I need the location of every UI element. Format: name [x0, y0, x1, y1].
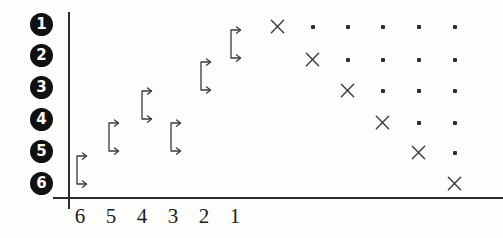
scatter-plot-figure: 123456 654321: [0, 0, 503, 238]
dot-marker: [417, 58, 421, 62]
x-tick-label-5: 5: [101, 203, 121, 230]
dot-marker: [453, 121, 457, 125]
x-tick-label-6: 6: [70, 203, 90, 230]
bracket-arrow-marker: [137, 87, 159, 123]
y-tick-badge-5: 5: [30, 140, 53, 163]
bracket-arrow-marker: [166, 119, 188, 155]
cross-marker: [339, 82, 356, 99]
x-tick-label-4: 4: [132, 203, 152, 230]
cross-marker: [304, 51, 321, 68]
cross-marker: [446, 175, 463, 192]
x-axis-line: [53, 197, 503, 199]
dot-marker: [417, 121, 421, 125]
dot-marker: [381, 58, 385, 62]
dot-marker: [381, 89, 385, 93]
y-tick-badge-2: 2: [30, 44, 53, 67]
y-tick-badge-4: 4: [30, 108, 53, 131]
dot-marker: [417, 89, 421, 93]
bracket-arrow-marker: [196, 58, 218, 94]
dot-marker: [346, 25, 350, 29]
dot-marker: [453, 151, 457, 155]
cross-marker: [269, 18, 286, 35]
y-tick-badge-3: 3: [30, 76, 53, 99]
dot-marker: [311, 25, 315, 29]
bracket-arrow-marker: [104, 119, 126, 155]
dot-marker: [453, 25, 457, 29]
x-tick-label-1: 1: [225, 203, 245, 230]
cross-marker: [410, 144, 427, 161]
y-tick-badge-6: 6: [30, 172, 53, 195]
dot-marker: [417, 25, 421, 29]
y-tick-badge-1: 1: [30, 13, 53, 36]
x-tick-label-2: 2: [194, 203, 214, 230]
dot-marker: [381, 25, 385, 29]
bracket-arrow-marker: [226, 26, 248, 62]
dot-marker: [453, 89, 457, 93]
dot-marker: [346, 58, 350, 62]
cross-marker: [374, 114, 391, 131]
y-axis-line: [68, 12, 70, 209]
x-tick-label-3: 3: [163, 203, 183, 230]
bracket-arrow-marker: [72, 152, 94, 188]
dot-marker: [453, 58, 457, 62]
